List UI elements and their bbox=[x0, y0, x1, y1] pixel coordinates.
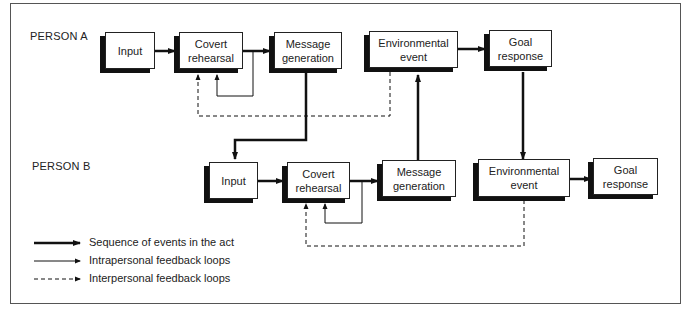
box-b-goal-response: Goal response bbox=[593, 158, 658, 195]
person-a-label: PERSON A bbox=[30, 30, 88, 42]
box-a-goal-response-label: Goal response bbox=[498, 35, 543, 63]
box-a-environmental-event-label: Environmental event bbox=[378, 36, 448, 64]
box-b-message-generation-label: Message generation bbox=[393, 165, 445, 193]
box-b-input-label: Input bbox=[221, 174, 245, 188]
box-a-covert-rehearsal-label: Covert rehearsal bbox=[188, 37, 234, 65]
box-b-input: Input bbox=[209, 162, 258, 199]
box-a-input: Input bbox=[105, 32, 155, 69]
box-a-covert-rehearsal: Covert rehearsal bbox=[179, 32, 243, 69]
box-a-message-generation-label: Message generation bbox=[282, 37, 334, 65]
legend-interpersonal-label: Interpersonal feedback loops bbox=[89, 272, 230, 284]
box-a-input-label: Input bbox=[118, 44, 142, 58]
box-b-goal-response-label: Goal response bbox=[603, 163, 648, 191]
person-b-label: PERSON B bbox=[32, 160, 90, 172]
box-b-covert-rehearsal: Covert rehearsal bbox=[287, 162, 350, 199]
box-b-covert-rehearsal-label: Covert rehearsal bbox=[296, 167, 342, 195]
box-b-environmental-event: Environmental event bbox=[478, 159, 570, 197]
box-b-message-generation: Message generation bbox=[382, 160, 456, 197]
box-a-environmental-event: Environmental event bbox=[369, 31, 458, 68]
box-b-environmental-event-label: Environmental event bbox=[489, 164, 559, 192]
legend-intrapersonal-label: Intrapersonal feedback loops bbox=[89, 254, 230, 266]
box-a-goal-response: Goal response bbox=[489, 30, 552, 67]
legend-sequence-label: Sequence of events in the act bbox=[89, 236, 234, 248]
box-a-message-generation: Message generation bbox=[274, 32, 342, 69]
loop-a-env-to-a-covert bbox=[198, 72, 390, 116]
